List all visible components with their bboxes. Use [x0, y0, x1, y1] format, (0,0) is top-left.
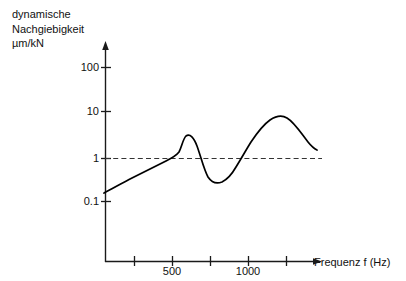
- plot-svg: [0, 0, 406, 281]
- y-axis: [102, 41, 109, 262]
- x-axis: [105, 258, 322, 265]
- chart-figure: dynamische Nachgiebigkeit µm/kN Frequenz…: [0, 0, 406, 281]
- compliance-curve: [104, 116, 317, 193]
